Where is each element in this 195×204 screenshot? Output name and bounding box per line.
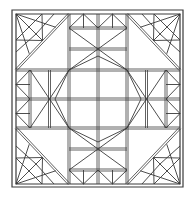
center-diagonal bbox=[127, 70, 141, 99]
edge-triangle-line bbox=[166, 99, 180, 114]
edge-triangle-line bbox=[16, 99, 30, 114]
edge-triangle-line bbox=[16, 85, 30, 100]
edge-triangle-line bbox=[166, 85, 180, 100]
quilt-pattern-diagram bbox=[0, 0, 195, 204]
edge-triangle-line bbox=[69, 14, 84, 28]
center-diagonal bbox=[98, 56, 127, 70]
center-diagonal bbox=[127, 99, 141, 128]
edge-triangle-line bbox=[84, 14, 99, 28]
edge-triangle-line bbox=[166, 114, 180, 129]
edge-triangle-line bbox=[16, 70, 30, 85]
edge-triangle-line bbox=[16, 114, 30, 129]
center-diagonal bbox=[98, 128, 127, 142]
center-diagonal bbox=[69, 56, 98, 70]
center-diagonal bbox=[55, 70, 69, 99]
inner-frame bbox=[16, 14, 180, 184]
edge-triangle-line bbox=[84, 170, 99, 184]
pattern-svg bbox=[0, 0, 195, 204]
edge-triangle-line bbox=[166, 70, 180, 85]
edge-triangle-line bbox=[69, 170, 84, 184]
edge-triangle-line bbox=[98, 14, 113, 28]
edge-triangle-line bbox=[113, 14, 128, 28]
center-diagonal bbox=[55, 99, 69, 128]
edge-triangle-line bbox=[113, 170, 128, 184]
edge-triangle-line bbox=[98, 170, 113, 184]
center-diagonal bbox=[69, 128, 98, 142]
